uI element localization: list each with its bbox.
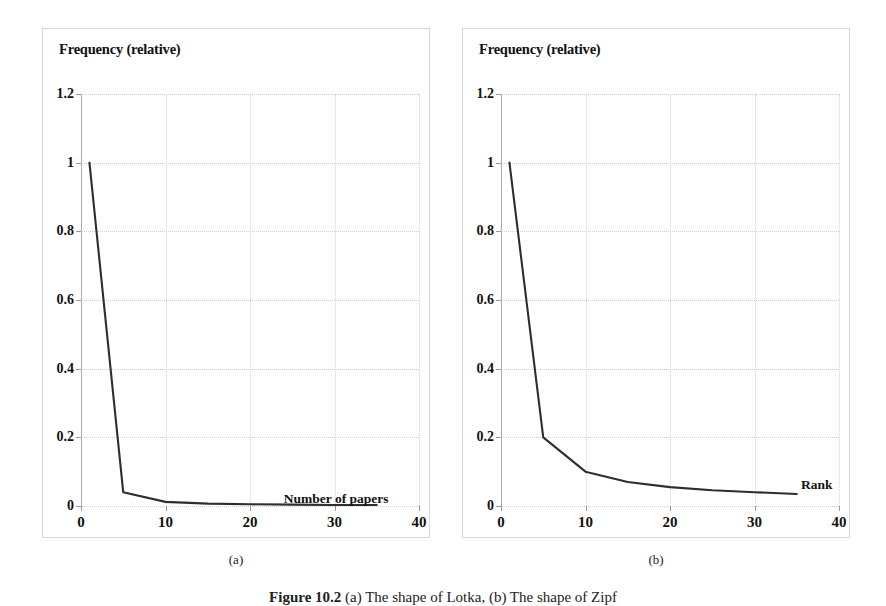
- x-tick-label-b: 0: [497, 514, 505, 531]
- x-gridline: [839, 94, 840, 506]
- x-tickmark: [755, 506, 756, 511]
- y-tick-label-b: 1.2: [477, 86, 495, 102]
- x-gridline: [419, 94, 420, 506]
- figure-caption-text: (a) The shape of Lotka, (b) The shape of…: [341, 589, 617, 605]
- y-tick-label-b: 0.4: [477, 361, 495, 377]
- x-tick-label-a: 10: [158, 514, 173, 531]
- figure-caption: Figure 10.2 (a) The shape of Lotka, (b) …: [0, 589, 886, 606]
- y-axis-title-b: Frequency (relative): [479, 41, 601, 58]
- x-tickmark: [501, 506, 502, 511]
- y-tick-label-b: 0.8: [477, 223, 495, 239]
- x-tick-label-a: 30: [327, 514, 342, 531]
- y-tick-label-b: 0: [487, 498, 494, 514]
- data-series-line-a: [81, 94, 419, 506]
- x-tickmark: [166, 506, 167, 511]
- x-tickmark: [419, 506, 420, 511]
- y-tick-label-a: 0: [67, 498, 74, 514]
- y-tick-label-b: 1: [487, 155, 494, 171]
- y-tick-label-b: 0.2: [477, 429, 495, 445]
- y-tick-label-a: 1: [67, 155, 74, 171]
- x-tickmark: [81, 506, 82, 511]
- y-tick-label-a: 0.4: [57, 361, 75, 377]
- x-tick-label-b: 30: [747, 514, 762, 531]
- x-tickmark: [335, 506, 336, 511]
- x-tick-label-a: 0: [77, 514, 85, 531]
- data-series-line-b: [501, 94, 839, 506]
- y-tick-label-a: 0.8: [57, 223, 75, 239]
- chart-panel-a: Frequency (relative) 00.20.40.60.811.201…: [42, 28, 430, 538]
- plot-area-b: 00.20.40.60.811.2010203040: [501, 94, 839, 506]
- figure-caption-number: Figure 10.2: [269, 589, 341, 605]
- x-axis-title-a: Number of papers: [284, 491, 389, 507]
- plot-area-a: 00.20.40.60.811.2010203040: [81, 94, 419, 506]
- x-tick-label-b: 40: [832, 514, 847, 531]
- chart-panel-b: Frequency (relative) 00.20.40.60.811.201…: [462, 28, 850, 538]
- x-tickmark: [670, 506, 671, 511]
- x-axis-title-b: Rank: [801, 477, 833, 493]
- x-tick-label-a: 40: [412, 514, 427, 531]
- x-tick-label-b: 20: [663, 514, 678, 531]
- y-tick-label-a: 0.2: [57, 429, 75, 445]
- subcaption-a: (a): [42, 552, 430, 568]
- x-tick-label-a: 20: [243, 514, 258, 531]
- x-tickmark: [250, 506, 251, 511]
- y-tick-label-b: 0.6: [477, 292, 495, 308]
- y-tick-label-a: 0.6: [57, 292, 75, 308]
- y-tick-label-a: 1.2: [57, 86, 75, 102]
- x-tick-label-b: 10: [578, 514, 593, 531]
- x-tickmark: [586, 506, 587, 511]
- x-tickmark: [839, 506, 840, 511]
- subcaption-b: (b): [462, 552, 850, 568]
- y-axis-title-a: Frequency (relative): [59, 41, 181, 58]
